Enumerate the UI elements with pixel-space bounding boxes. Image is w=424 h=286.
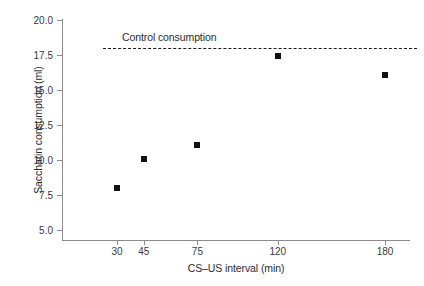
y-tick-mark: [57, 230, 62, 231]
y-tick-label: 7.5: [5, 190, 53, 201]
y-tick-mark: [57, 55, 62, 56]
x-tick-mark: [385, 240, 386, 245]
y-tick-mark: [57, 20, 62, 21]
y-tick-mark: [57, 160, 62, 161]
x-tick-mark: [117, 240, 118, 245]
x-tick-mark: [278, 240, 279, 245]
y-axis-line: [62, 19, 63, 241]
y-tick-mark: [57, 195, 62, 196]
y-tick-label: 17.5: [5, 50, 53, 61]
x-tick-mark: [197, 240, 198, 245]
x-tick-label: 180: [365, 246, 405, 257]
chart-figure: Saccharin consumption (ml) CS–US interva…: [0, 0, 424, 286]
y-tick-mark: [57, 125, 62, 126]
y-tick-label: 15.0: [5, 85, 53, 96]
control-consumption-line: [103, 48, 417, 49]
control-consumption-label: Control consumption: [122, 31, 216, 43]
y-tick-mark: [57, 90, 62, 91]
y-tick-label: 10.0: [5, 155, 53, 166]
data-point: [141, 156, 147, 162]
x-tick-mark: [144, 240, 145, 245]
data-point: [275, 53, 281, 59]
x-tick-label: 75: [177, 246, 217, 257]
x-tick-label: 120: [258, 246, 298, 257]
data-point: [194, 142, 200, 148]
x-axis-label: CS–US interval (min): [62, 262, 410, 274]
x-tick-label: 45: [124, 246, 164, 257]
y-tick-label: 12.5: [5, 120, 53, 131]
y-tick-label: 5.0: [5, 225, 53, 236]
data-point: [382, 72, 388, 78]
data-point: [114, 185, 120, 191]
x-axis-line: [62, 240, 410, 241]
y-tick-label: 20.0: [5, 15, 53, 26]
